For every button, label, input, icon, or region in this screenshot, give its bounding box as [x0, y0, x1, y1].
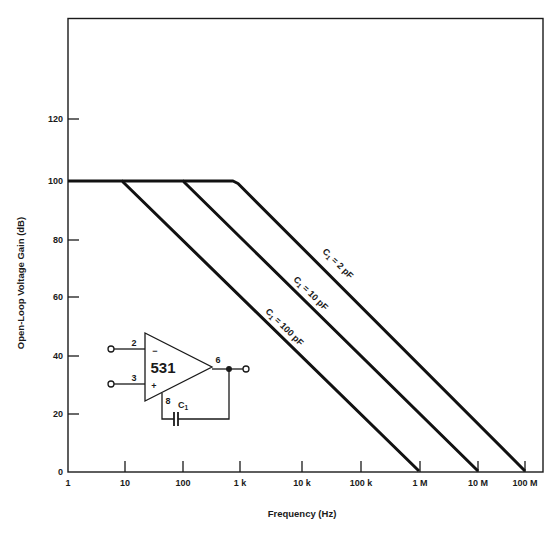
- x-tick-label: 10: [120, 478, 130, 488]
- minus-symbol: −: [152, 346, 157, 356]
- x-tick-label: 10 M: [468, 478, 488, 488]
- capacitor-label: C1: [178, 400, 189, 411]
- pin-6-label: 6: [215, 355, 220, 365]
- curve-c1-2pf: [183, 181, 525, 471]
- curve-c1-100pf: [68, 181, 419, 471]
- y-axis: 0 20 40 60 80 100 120: [48, 114, 79, 477]
- pin-2-label: 2: [131, 338, 136, 348]
- pin-3-label: 3: [131, 373, 136, 383]
- y-tick-label: 80: [53, 235, 63, 245]
- x-tick-label: 100 M: [512, 478, 537, 488]
- y-tick-label: 100: [48, 176, 63, 186]
- x-tick-label: 100: [175, 478, 190, 488]
- pin-8-label: 8: [165, 396, 170, 406]
- plus-symbol: +: [151, 381, 156, 391]
- inverting-input-terminal: [108, 346, 114, 352]
- y-axis-title: Open-Loop Voltage Gain (dB): [15, 217, 26, 349]
- output-terminal: [243, 366, 249, 372]
- x-tick-label: 10 k: [293, 478, 312, 488]
- noninverting-input-terminal: [108, 381, 114, 387]
- curve-c1-10pf: [122, 181, 478, 471]
- x-tick-label: 1 k: [234, 478, 248, 488]
- x-axis-title: Frequency (Hz): [268, 508, 337, 519]
- gain-vs-frequency-chart: 0 20 40 60 80 100 120 Open-Loop Voltage …: [0, 0, 559, 537]
- plot-frame: [68, 19, 543, 473]
- x-tick-label: 100 k: [350, 478, 374, 488]
- curve-label-2pf: C1 = 2 pF: [320, 246, 356, 281]
- x-tick-label: 1: [65, 478, 70, 488]
- x-axis: 1 10 100 1 k 10 k 100 k 1 M 10 M 100 M: [65, 461, 537, 488]
- opamp-part-number: 531: [150, 359, 175, 376]
- y-tick-label: 60: [53, 292, 63, 302]
- y-tick-label: 120: [48, 114, 63, 124]
- y-tick-label: 40: [53, 351, 63, 361]
- y-tick-label: 20: [53, 409, 63, 419]
- x-tick-label: 1 M: [412, 478, 427, 488]
- gain-curves: [68, 181, 525, 471]
- curve-label-100pf: C1 = 100 pF: [263, 306, 306, 348]
- y-tick-label: 0: [58, 467, 63, 477]
- opamp-schematic: [108, 333, 249, 426]
